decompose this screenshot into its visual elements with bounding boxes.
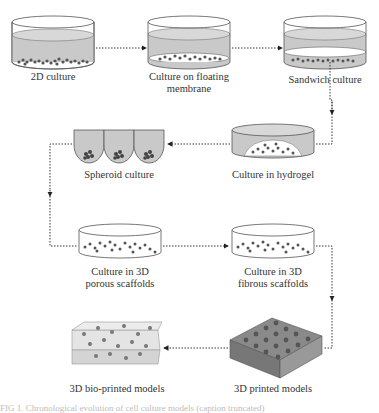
label-3d-bioprinted: 3D bio-printed models (62, 383, 172, 395)
label-porous-line2: porous scaffolds (74, 278, 166, 290)
spheroid-wells (74, 130, 164, 163)
label-3d-printed: 3D printed models (226, 383, 320, 395)
dish-2d-culture (12, 16, 94, 69)
label-floating-line1: Culture on floating (138, 71, 240, 83)
label-fibrous-line1: Culture in 3D (226, 266, 320, 278)
label-hydrogel: Culture in hydrogel (226, 169, 320, 181)
printed-model-block (230, 318, 322, 378)
label-porous-line1: Culture in 3D (74, 266, 166, 278)
diagram-canvas (0, 0, 379, 413)
label-spheroid: Spheroid culture (74, 169, 164, 181)
label-fibrous-scaffolds: Culture in 3D fibrous scaffolds (226, 266, 320, 290)
label-floating-line2: membrane (138, 83, 240, 95)
dish-floating-membrane (148, 16, 230, 69)
dish-hydrogel (232, 124, 314, 158)
dish-sandwich-culture (284, 16, 366, 69)
figure-caption: FIG 1. Chronological evolution of cell c… (0, 403, 264, 413)
label-sandwich-culture: Sandwich culture (280, 74, 370, 86)
label-fibrous-line2: fibrous scaffolds (226, 278, 320, 290)
label-floating-membrane: Culture on floating membrane (138, 71, 240, 95)
label-porous-scaffolds: Culture in 3D porous scaffolds (74, 266, 166, 290)
bioprinted-model-block (72, 322, 162, 364)
dish-fibrous-scaffold (232, 224, 314, 258)
dish-porous-scaffold (79, 224, 161, 258)
label-2d-culture: 2D culture (12, 71, 94, 83)
